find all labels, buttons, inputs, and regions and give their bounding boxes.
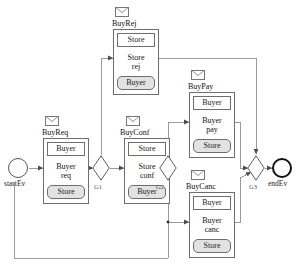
participant-band-initiator-buypay: Buyer bbox=[193, 96, 231, 110]
envelope-icon bbox=[191, 70, 205, 80]
gateway-g2[interactable] bbox=[159, 155, 177, 181]
task-activity-buyreq: Buyer req bbox=[56, 162, 76, 180]
participant-band-receiver-buycanc: Store bbox=[193, 239, 231, 253]
task-activity-buyrej: Store rej bbox=[128, 53, 145, 71]
envelope-icon bbox=[191, 170, 205, 180]
task-name-buyrej: BuyRej bbox=[112, 19, 136, 28]
participant-band-initiator-buyconf: Store bbox=[128, 142, 166, 156]
participant-band-receiver-buypay: Store bbox=[193, 139, 231, 153]
envelope-icon bbox=[115, 7, 129, 17]
envelope-icon bbox=[45, 116, 59, 126]
start-event-label: startEv bbox=[4, 180, 25, 188]
task-activity-buycanc: Buyer canc bbox=[202, 216, 222, 234]
end-event[interactable] bbox=[272, 158, 292, 178]
participant-band-receiver-buyrej: Buyer bbox=[117, 76, 155, 90]
gateway-g3[interactable] bbox=[247, 155, 265, 181]
task-activity-buypay: Buyer pay bbox=[202, 116, 222, 134]
end-event-label: endEv bbox=[268, 180, 287, 188]
participant-band-initiator-buycanc: Buyer bbox=[193, 196, 231, 210]
task-name-buycanc: BuyCanc bbox=[186, 182, 216, 191]
gateway-label-g1: G1 bbox=[94, 183, 102, 190]
choreography-task-buyreq[interactable]: Buyer Buyer req Store bbox=[43, 138, 89, 204]
gateway-label-g2: G2 bbox=[156, 183, 164, 190]
task-name-buyconf: BuyConf bbox=[120, 128, 149, 137]
participant-band-initiator-buyrej: Store bbox=[117, 33, 155, 47]
task-activity-buyconf: Store conf bbox=[139, 162, 156, 180]
envelope-icon bbox=[126, 116, 140, 126]
participant-band-receiver-buyreq: Store bbox=[47, 185, 85, 199]
flow-g2-to-buypay bbox=[168, 122, 189, 155]
diagram-canvas: startEv BuyReq Buyer Buyer req Store G1 … bbox=[0, 0, 299, 270]
participant-band-initiator-buyreq: Buyer bbox=[47, 142, 85, 156]
gateway-g1[interactable] bbox=[92, 155, 110, 181]
task-name-buyreq: BuyReq bbox=[42, 128, 68, 137]
choreography-task-buypay[interactable]: Buyer Buyer pay Store bbox=[189, 92, 235, 158]
task-name-buypay: BuyPay bbox=[188, 82, 213, 91]
start-event[interactable] bbox=[8, 158, 28, 178]
gateway-label-g3: G3 bbox=[249, 183, 257, 190]
choreography-task-buycanc[interactable]: Buyer Buyer canc Store bbox=[189, 192, 235, 258]
flow-g1-to-buyrej bbox=[101, 58, 113, 155]
choreography-task-buyrej[interactable]: Store Store rej Buyer bbox=[113, 29, 159, 95]
